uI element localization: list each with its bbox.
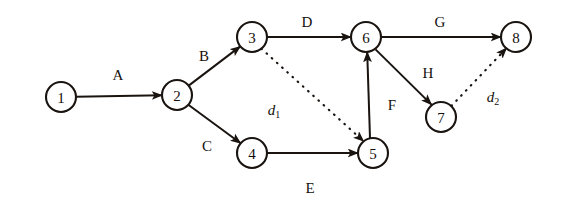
edge-label-C: C	[202, 138, 212, 154]
node-8[interactable]: 8	[501, 22, 531, 52]
edges-layer	[76, 37, 507, 153]
edge-label-d2-subscript: 2	[494, 96, 499, 107]
node-7[interactable]: 7	[426, 102, 456, 132]
node-3[interactable]: 3	[237, 22, 267, 52]
node-3-label: 3	[248, 30, 256, 46]
edge-label-D: D	[302, 14, 313, 30]
node-1-label: 1	[57, 90, 65, 106]
edge-label-B: B	[199, 48, 209, 64]
node-7-label: 7	[437, 110, 445, 126]
nodes-layer: 1 2 3 4 5 6 7	[46, 22, 531, 168]
node-4[interactable]: 4	[237, 138, 267, 168]
node-5[interactable]: 5	[358, 138, 388, 168]
edge-label-d1-subscript: 1	[275, 109, 280, 120]
edge-F-line	[367, 52, 370, 138]
edge-label-d2: d2	[487, 89, 500, 107]
node-6[interactable]: 6	[351, 22, 381, 52]
edge-B-line	[189, 46, 241, 85]
edge-d1-line	[261, 49, 363, 142]
edge-label-H: H	[423, 65, 434, 81]
node-1[interactable]: 1	[46, 82, 76, 112]
edge-label-E: E	[305, 180, 314, 196]
node-6-label: 6	[362, 30, 370, 46]
network-diagram-canvas: 1 2 3 4 5 6 7	[0, 0, 564, 212]
edge-label-F: F	[388, 97, 396, 113]
node-5-label: 5	[369, 146, 377, 162]
node-4-label: 4	[248, 146, 256, 162]
node-8-label: 8	[512, 30, 520, 46]
node-2-label: 2	[173, 88, 181, 104]
edge-A-line	[76, 95, 162, 96]
network-diagram-svg: 1 2 3 4 5 6 7	[0, 0, 564, 212]
node-2[interactable]: 2	[162, 80, 192, 110]
edge-label-A: A	[113, 67, 124, 83]
edge-label-G: G	[435, 14, 446, 30]
edge-C-line	[188, 105, 240, 143]
edge-label-d1: d1	[268, 102, 281, 120]
